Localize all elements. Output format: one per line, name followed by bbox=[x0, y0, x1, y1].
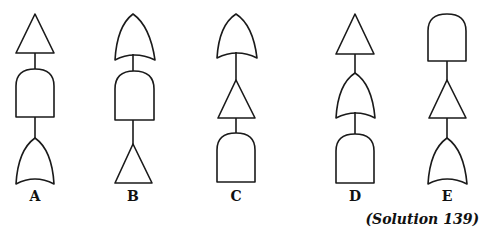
or-gate-shape bbox=[217, 14, 257, 58]
column-b bbox=[115, 14, 155, 183]
column-d bbox=[336, 14, 375, 183]
or-gate-shape bbox=[336, 73, 375, 118]
column-e bbox=[428, 14, 467, 184]
column-label-e: E bbox=[442, 188, 453, 204]
column-label-a: A bbox=[30, 188, 41, 204]
logic-gate-puzzle-diagram bbox=[0, 0, 485, 237]
column-label-b: B bbox=[127, 188, 139, 204]
and-gate-shape bbox=[16, 69, 54, 117]
or-gate-shape bbox=[428, 138, 467, 184]
triangle-shape bbox=[218, 80, 255, 118]
triangle-shape bbox=[115, 144, 152, 183]
and-gate-shape bbox=[217, 133, 255, 182]
triangle-shape bbox=[336, 14, 374, 54]
triangle-shape bbox=[429, 80, 466, 118]
and-gate-shape bbox=[336, 134, 374, 183]
triangle-shape bbox=[16, 14, 54, 53]
or-gate-shape bbox=[16, 138, 54, 184]
column-label-c: C bbox=[230, 188, 241, 204]
column-label-d: D bbox=[349, 188, 361, 204]
or-gate-shape bbox=[115, 14, 155, 60]
and-gate-shape bbox=[428, 14, 466, 61]
column-a bbox=[16, 14, 54, 184]
and-gate-shape bbox=[115, 71, 154, 120]
solution-caption: (Solution 139) bbox=[365, 211, 479, 227]
column-c bbox=[217, 14, 257, 182]
